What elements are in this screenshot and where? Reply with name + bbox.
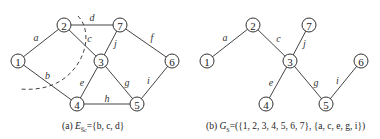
node-label: 7	[117, 20, 123, 32]
graph-b-graph: acjegi1234567	[200, 18, 368, 111]
graph-b-node-4: 4	[259, 97, 273, 111]
graph-b-node-5: 5	[319, 97, 333, 111]
node-label: 5	[323, 99, 329, 111]
graph-a-edge-label-h: h	[105, 93, 110, 104]
graph-b-edge-a	[207, 25, 253, 61]
node-label: 7	[306, 20, 312, 32]
caption-a-rest: ={b, c, d}	[87, 121, 125, 131]
graph-a-edge-f	[120, 25, 172, 61]
graph-a-edge-label-g: g	[125, 77, 130, 88]
graph-diagram: abcdefghij1234567acjegi1234567	[0, 0, 380, 139]
graph-b-edge-label-c: c	[276, 33, 281, 44]
graph-a-node-7: 7	[113, 18, 127, 32]
graph-a-edge-i	[137, 61, 172, 104]
node-label: 6	[169, 56, 175, 68]
graph-a-node-1: 1	[11, 54, 25, 68]
graph-b-node-1: 1	[200, 54, 214, 68]
graph-b-edge-label-g: g	[314, 77, 319, 88]
node-label: 1	[204, 56, 210, 68]
graph-b-node-7: 7	[302, 18, 316, 32]
node-label: 3	[287, 56, 293, 68]
caption-a: (a) ES̅c={b, c, d}	[62, 121, 124, 133]
graph-a-edge-a	[18, 25, 64, 61]
graph-a-edge-label-f: f	[151, 32, 155, 43]
node-label: 4	[74, 99, 80, 111]
graph-a-edge-label-b: b	[45, 70, 50, 81]
graph-a-edge-label-e: e	[80, 77, 85, 88]
node-label: 3	[98, 56, 104, 68]
caption-a-prefix: (a)	[62, 121, 75, 131]
node-label: 2	[61, 20, 67, 32]
node-label: 6	[358, 56, 364, 68]
graph-a-node-5: 5	[130, 97, 144, 111]
graph-a-edge-b	[18, 61, 77, 104]
graph-b-edge-i	[326, 61, 361, 104]
caption-b: (b) GS=({1, 2, 3, 4, 5, 6, 7}, {a, c, e,…	[206, 121, 365, 133]
graph-a-edge-c	[64, 25, 101, 61]
graph-a-edge-label-a: a	[34, 32, 39, 43]
graph-a-node-6: 6	[165, 54, 179, 68]
cut-curve	[20, 16, 86, 89]
graph-a-node-2: 2	[57, 18, 71, 32]
graph-a-node-3: 3	[94, 54, 108, 68]
caption-b-prefix: (b)	[206, 121, 219, 131]
graph-a-edge-label-i: i	[147, 75, 150, 86]
node-label: 5	[134, 99, 140, 111]
graph-b-edge-g	[290, 61, 326, 104]
node-label: 4	[263, 99, 269, 111]
graph-b-node-6: 6	[354, 54, 368, 68]
caption-b-rest: =({1, 2, 3, 4, 5, 6, 7}, {a, c, e, g, i}…	[230, 121, 365, 131]
node-label: 1	[15, 56, 21, 68]
graph-b-edge-c	[253, 25, 290, 61]
graph-a-edge-label-c: c	[87, 33, 92, 44]
graph-a-edge-label-d: d	[90, 12, 96, 23]
graph-a-graph: abcdefghij1234567	[11, 12, 179, 112]
graph-b-node-2: 2	[246, 18, 260, 32]
graph-a-node-4: 4	[70, 97, 84, 111]
graph-b-node-3: 3	[283, 54, 297, 68]
graph-b-edge-label-e: e	[269, 77, 274, 88]
graph-b-edge-label-a: a	[223, 32, 228, 43]
node-label: 2	[250, 20, 256, 32]
graph-b-edge-label-i: i	[336, 75, 339, 86]
